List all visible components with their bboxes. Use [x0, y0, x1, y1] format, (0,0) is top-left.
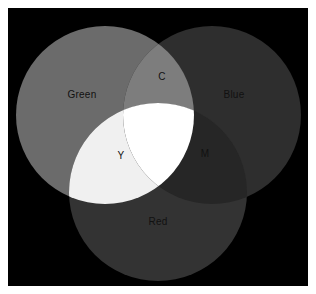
intersection-label-cyan: C	[158, 71, 165, 82]
venn-diagram-canvas: Green Blue Red C Y M	[8, 8, 308, 286]
venn-diagram-figure: Green Blue Red C Y M	[0, 0, 316, 294]
set-label-green: Green	[68, 89, 97, 100]
intersection-label-magenta: M	[201, 148, 210, 159]
plot-area: Green Blue Red C Y M	[8, 8, 308, 286]
set-label-blue: Blue	[224, 89, 245, 100]
intersection-label-yellow: Y	[118, 150, 125, 161]
set-label-red: Red	[149, 216, 168, 227]
